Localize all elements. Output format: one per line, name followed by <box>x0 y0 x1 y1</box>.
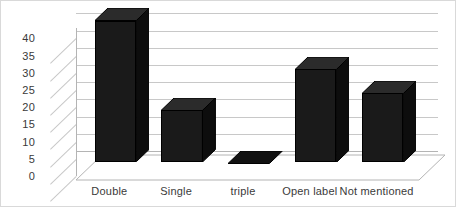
y-tick-label: 25 <box>22 84 35 95</box>
y-tick-label: 0 <box>29 171 35 182</box>
y-tick-label: 35 <box>22 50 35 61</box>
x-tick-label: Open label <box>282 186 337 197</box>
x-tick-label: Single <box>160 186 192 197</box>
bar-top-face <box>228 151 282 164</box>
bar-3d-faces <box>161 98 215 162</box>
bar-3d-faces <box>362 81 416 162</box>
bar-single <box>161 110 202 162</box>
x-tick-label: Double <box>91 186 127 197</box>
y-tick-label: 10 <box>22 136 35 147</box>
y-tick-label: 40 <box>22 33 35 44</box>
x-axis-labels: DoubleSingletripleOpen labelNot mentione… <box>42 184 446 204</box>
plot-area <box>42 9 446 181</box>
bar-3d-faces <box>295 57 349 162</box>
y-tick-label: 15 <box>22 119 35 130</box>
bar-not-mentioned <box>362 93 403 162</box>
y-tick-label: 5 <box>29 153 35 164</box>
y-tick-label: 30 <box>22 67 35 78</box>
bar-side-face <box>336 57 349 162</box>
bar-chart: 0510152025303540 DoubleSingletripleOpen … <box>0 0 456 207</box>
bar-double <box>95 21 136 162</box>
bar-3d-faces <box>95 8 149 162</box>
x-tick-label: Not mentioned <box>340 186 414 197</box>
bar-triple <box>228 150 282 163</box>
bar-side-face <box>403 81 416 162</box>
y-axis: 0510152025303540 <box>9 1 35 207</box>
bar-side-face <box>136 8 149 162</box>
y-tick-label: 20 <box>22 102 35 113</box>
x-tick-label: triple <box>230 186 255 197</box>
bar-open-label <box>295 69 336 162</box>
